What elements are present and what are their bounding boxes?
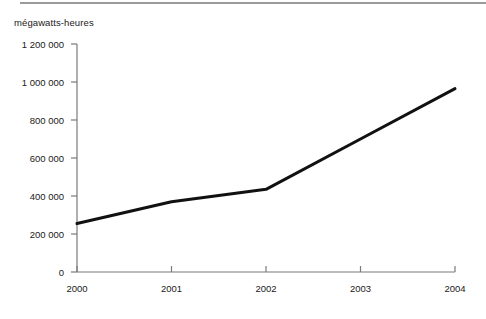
chart-figure: mégawatts-heures 1 200 000 1 000 000 800… [0, 0, 486, 319]
x-tick-label: 2000 [66, 283, 87, 294]
y-tick-label: 800 000 [2, 115, 64, 126]
x-tick-label: 2004 [444, 283, 465, 294]
line-chart-plot [0, 0, 486, 319]
y-tick-label: 600 000 [2, 153, 64, 164]
x-tick-label: 2003 [350, 283, 371, 294]
x-ticks-group [77, 266, 455, 272]
axes-group [77, 44, 455, 272]
y-tick-label: 1 200 000 [2, 39, 64, 50]
y-tick-label: 0 [2, 267, 64, 278]
y-tick-label: 1 000 000 [2, 77, 64, 88]
y-ticks-group [71, 44, 77, 272]
data-series-line [77, 89, 455, 224]
x-tick-label: 2002 [255, 283, 276, 294]
x-tick-label: 2001 [161, 283, 182, 294]
y-tick-label: 400 000 [2, 191, 64, 202]
y-tick-label: 200 000 [2, 229, 64, 240]
